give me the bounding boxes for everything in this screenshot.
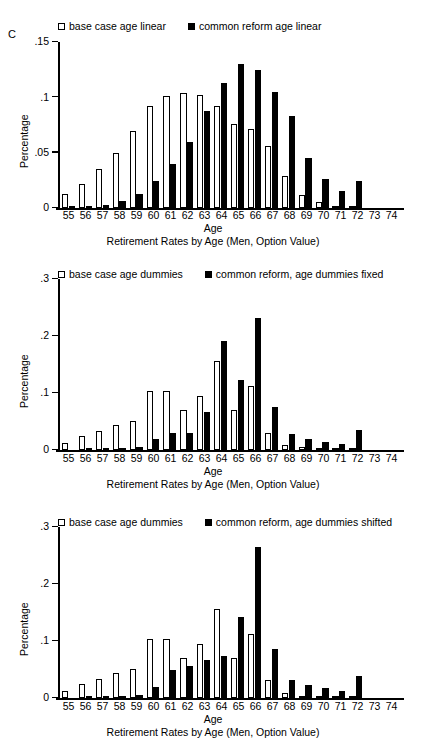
bar-group <box>77 279 94 450</box>
y-tick-label: .1 <box>40 387 49 398</box>
bar <box>180 410 186 450</box>
bar <box>103 205 109 208</box>
bar <box>163 391 169 450</box>
chart-panel-1: C base case age linear common reform age… <box>0 0 426 248</box>
x-tick-label: 66 <box>247 452 264 465</box>
bar <box>322 688 328 698</box>
bar-group <box>263 527 280 698</box>
bar <box>265 680 271 698</box>
x-tick-label: 63 <box>196 452 213 465</box>
bar <box>356 181 362 208</box>
x-tick-label: 57 <box>94 700 111 713</box>
y-tick: 0 <box>52 697 58 698</box>
bar-group <box>111 42 128 208</box>
x-tick-label: 73 <box>366 700 383 713</box>
bar <box>299 195 305 208</box>
y-axis-label: Percentage <box>18 114 30 168</box>
bar-group <box>280 527 297 698</box>
bar-group <box>128 527 145 698</box>
bar-group <box>331 279 348 450</box>
legend-entry-base-case: base case age linear <box>58 21 166 32</box>
x-tick-label: 72 <box>349 452 366 465</box>
bar-group <box>94 42 111 208</box>
bar <box>204 412 210 450</box>
x-tick-label: 67 <box>264 700 281 713</box>
y-tick-label: 0 <box>43 692 49 703</box>
bar-group <box>94 279 111 450</box>
bar <box>221 656 227 698</box>
bar <box>255 70 261 208</box>
bar <box>103 696 109 698</box>
y-tick-label: .15 <box>34 36 49 47</box>
x-tick-label: 62 <box>179 452 196 465</box>
panel-caption: Retirement Rates by Age (Men, Option Val… <box>0 235 426 247</box>
x-tick-label: 57 <box>94 209 111 222</box>
bar <box>356 676 362 698</box>
x-tick-label: 61 <box>162 700 179 713</box>
bar <box>79 684 85 698</box>
x-tick-label: 60 <box>145 700 162 713</box>
bar <box>79 184 85 208</box>
x-tick-label: 65 <box>230 700 247 713</box>
bar <box>113 425 119 450</box>
bar <box>289 116 295 208</box>
bar <box>86 448 92 450</box>
x-tick-label: 62 <box>179 700 196 713</box>
bar <box>170 433 176 450</box>
x-axis-ticks-1: 5556575859606162636465666768697071727374 <box>60 209 400 222</box>
bar-group <box>128 42 145 208</box>
x-tick-label: 60 <box>145 209 162 222</box>
bar <box>289 680 295 698</box>
bar-group <box>145 527 162 698</box>
bar-group <box>161 279 178 450</box>
x-tick-label: 72 <box>349 700 366 713</box>
bar <box>316 448 322 450</box>
x-tick-label: 69 <box>298 209 315 222</box>
legend-label: common reform age linear <box>199 21 322 32</box>
bar-group <box>364 527 381 698</box>
x-tick-label: 63 <box>196 700 213 713</box>
bar <box>305 685 311 698</box>
x-tick-label: 56 <box>77 700 94 713</box>
bar-group <box>347 42 364 208</box>
bar-group <box>111 279 128 450</box>
x-tick-label: 67 <box>264 452 281 465</box>
x-axis-label: Age <box>0 222 426 234</box>
bar-group <box>246 527 263 698</box>
bar <box>96 679 102 698</box>
x-tick-label: 56 <box>77 452 94 465</box>
y-tick: .2 <box>52 583 58 584</box>
y-tick-label: .05 <box>34 147 49 158</box>
bar-group <box>297 42 314 208</box>
legend-label: base case age dummies <box>69 269 183 280</box>
y-tick: .1 <box>52 392 58 393</box>
bar <box>153 687 159 698</box>
bar-group <box>178 42 195 208</box>
x-tick-label: 73 <box>366 452 383 465</box>
bar <box>187 142 193 208</box>
bar-group <box>314 279 331 450</box>
x-axis-label: Age <box>0 465 426 477</box>
bar <box>204 111 210 208</box>
bar-group <box>381 279 398 450</box>
bar <box>79 436 85 450</box>
legend-swatch-open-icon <box>58 519 65 526</box>
bar-group <box>229 42 246 208</box>
bar <box>248 634 254 698</box>
bar <box>214 106 220 208</box>
x-tick-label: 58 <box>111 700 128 713</box>
y-tick-label: .1 <box>40 92 49 103</box>
bar <box>136 695 142 698</box>
bar <box>163 96 169 208</box>
x-tick-label: 73 <box>366 209 383 222</box>
bar-group <box>381 527 398 698</box>
legend-label: base case age dummies <box>69 517 183 528</box>
bar-group <box>314 42 331 208</box>
y-tick: .2 <box>52 335 58 336</box>
x-tick-label: 74 <box>383 209 400 222</box>
legend-swatch-open-icon <box>58 23 65 30</box>
bar <box>214 361 220 450</box>
bar <box>96 431 102 450</box>
bar <box>255 318 261 450</box>
bar <box>69 206 75 208</box>
